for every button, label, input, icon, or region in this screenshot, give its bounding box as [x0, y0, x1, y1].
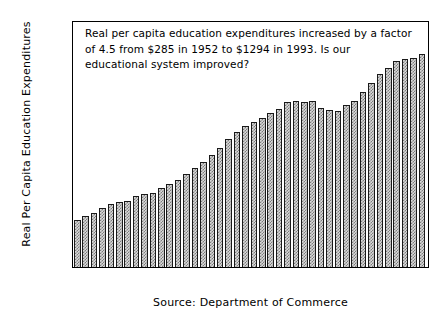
bar — [259, 118, 266, 267]
bar — [150, 193, 157, 267]
bar — [124, 201, 131, 267]
x-axis-minor-tick — [347, 267, 348, 268]
bar — [141, 194, 148, 267]
bar — [175, 180, 182, 267]
x-axis-minor-tick — [77, 267, 78, 268]
x-axis-minor-tick — [204, 267, 205, 268]
bar — [234, 132, 241, 267]
x-axis-minor-tick — [145, 267, 146, 268]
x-axis-minor-tick — [280, 267, 281, 268]
bar — [108, 204, 115, 267]
x-axis-minor-tick — [339, 267, 340, 268]
bar — [133, 196, 140, 267]
x-axis-minor-tick — [111, 267, 112, 268]
x-axis-minor-tick — [86, 267, 87, 268]
x-axis-minor-tick — [313, 267, 314, 268]
bar — [293, 101, 300, 267]
x-axis-minor-tick — [398, 267, 399, 268]
bar — [301, 102, 308, 267]
bar — [402, 59, 409, 267]
bar — [393, 61, 400, 267]
x-axis-minor-tick — [162, 267, 163, 268]
bar — [116, 202, 123, 267]
x-axis-tick-mark — [398, 267, 400, 268]
plot-area: Real per capita education expenditures i… — [72, 21, 429, 268]
bar — [91, 213, 98, 267]
x-axis-minor-tick — [212, 267, 213, 268]
x-axis-minor-tick — [364, 267, 365, 268]
bar — [351, 101, 358, 267]
bar — [385, 68, 392, 267]
x-axis-minor-tick — [128, 267, 129, 268]
bar — [74, 220, 81, 267]
x-axis-minor-tick — [254, 267, 255, 268]
bar — [326, 110, 333, 267]
bar — [343, 105, 350, 267]
x-axis-minor-tick — [136, 267, 137, 268]
bar — [360, 92, 367, 267]
x-axis-minor-tick — [246, 267, 247, 268]
x-axis-minor-tick — [381, 267, 382, 268]
x-axis-minor-tick — [305, 267, 306, 268]
x-axis-minor-tick — [263, 267, 264, 268]
source-caption: Source: Department of Commerce — [72, 296, 429, 309]
bar — [410, 58, 417, 267]
bar — [377, 74, 384, 267]
x-axis-minor-tick — [153, 267, 154, 268]
bar — [99, 208, 106, 267]
x-axis-minor-tick — [423, 267, 424, 268]
y-axis-label: Real Per Capita Education Expenditures — [18, 0, 36, 268]
bar — [419, 54, 426, 267]
bar — [209, 155, 216, 267]
x-axis-minor-tick — [221, 267, 222, 268]
x-axis-minor-tick — [322, 267, 323, 268]
bar — [166, 184, 173, 267]
x-axis-minor-tick — [389, 267, 390, 268]
x-axis-minor-tick — [414, 267, 415, 268]
chart-figure: Real Per Capita Education Expenditures R… — [0, 0, 446, 328]
bar — [276, 109, 283, 267]
x-axis-tick-mark — [229, 267, 231, 268]
x-axis-tick-mark — [355, 267, 357, 268]
x-axis-minor-tick — [170, 267, 171, 268]
x-axis-minor-tick — [271, 267, 272, 268]
x-axis-minor-tick — [94, 267, 95, 268]
bar — [251, 122, 258, 267]
x-axis-minor-tick — [288, 267, 289, 268]
bar — [267, 113, 274, 267]
x-axis-minor-tick — [330, 267, 331, 268]
bar — [217, 148, 224, 267]
bar — [318, 108, 325, 267]
bar — [183, 174, 190, 267]
bar — [368, 83, 375, 267]
bar — [200, 162, 207, 267]
x-axis-minor-tick — [195, 267, 196, 268]
bar-series — [73, 22, 428, 267]
bar — [284, 102, 291, 267]
bar — [335, 111, 342, 267]
x-axis-tick-mark — [271, 267, 273, 268]
x-axis-minor-tick — [296, 267, 297, 268]
bar — [158, 188, 165, 267]
bar — [225, 139, 232, 267]
bar — [192, 168, 199, 267]
x-axis-minor-tick — [187, 267, 188, 268]
x-axis-minor-tick — [372, 267, 373, 268]
x-axis-minor-tick — [103, 267, 104, 268]
x-axis-minor-tick — [178, 267, 179, 268]
x-axis-tick-mark — [145, 267, 147, 268]
x-axis-tick-mark — [187, 267, 189, 268]
x-axis-tick-mark — [103, 267, 105, 268]
bar — [82, 216, 89, 267]
x-axis-minor-tick — [355, 267, 356, 268]
x-axis-minor-tick — [229, 267, 230, 268]
x-axis-tick-mark — [313, 267, 315, 268]
x-axis-minor-tick — [119, 267, 120, 268]
bar — [242, 126, 249, 267]
x-axis-minor-tick — [237, 267, 238, 268]
bar — [309, 101, 316, 267]
x-axis-minor-tick — [406, 267, 407, 268]
